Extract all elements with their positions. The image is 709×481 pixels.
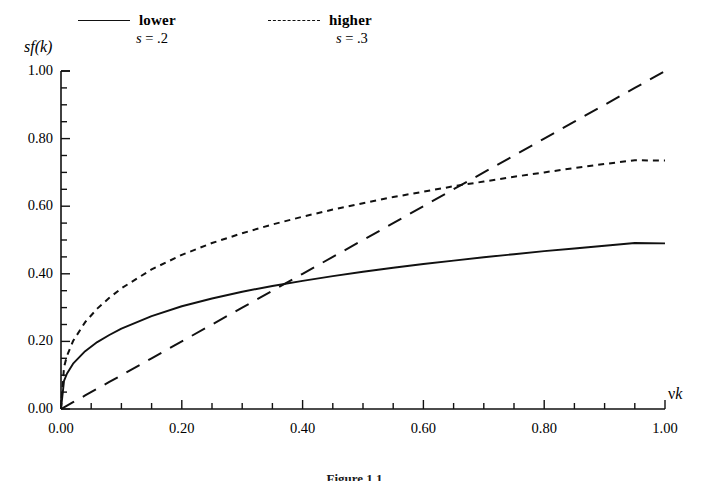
curve-lower-s02 — [61, 243, 665, 409]
plot-area — [0, 0, 709, 481]
curve-depreciation-nuk — [61, 71, 665, 409]
curve-higher-s03 — [61, 160, 665, 409]
figure-caption: Figure 1.1 — [0, 466, 709, 481]
curve-group — [61, 71, 665, 409]
figure-container: lower s = .2 higher s = .3 sf(k) νk 0.00… — [0, 0, 709, 481]
